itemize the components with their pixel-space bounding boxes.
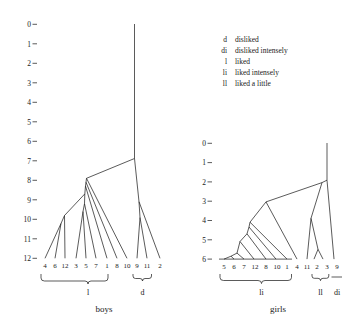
group-brace (220, 274, 292, 284)
group-brace (133, 274, 152, 281)
boys-dendrogram-links (45, 24, 160, 258)
axis-tick-12: 12 (24, 254, 38, 263)
axis-tick-1: 1 (202, 158, 212, 167)
axis-tick-label: 1 (202, 158, 206, 167)
axis-tick-label: 4 (27, 98, 31, 107)
legend-description: liked (235, 57, 250, 66)
axis-tick-3: 3 (27, 79, 37, 88)
leaf-label: 4 (43, 262, 47, 270)
legend-description: disliked (235, 35, 259, 44)
legend-row-1: di disliked intensely (221, 46, 288, 55)
axis-tick-2: 2 (202, 178, 212, 187)
legend: d disliked di disliked intensely l liked… (221, 35, 288, 88)
leaf-label: 9 (335, 263, 339, 271)
axis-tick-label: 4 (202, 216, 206, 225)
group-label: di (334, 288, 341, 297)
legend-description: liked intensely (235, 68, 279, 77)
axis-tick-label: 0 (27, 20, 31, 29)
leaf-label: 10 (124, 262, 132, 270)
legend-code: di (221, 46, 227, 55)
axis-tick-label: 3 (27, 79, 31, 88)
axis-tick-6: 6 (27, 137, 37, 146)
axis-tick-0: 0 (202, 139, 212, 148)
group-label: l (87, 288, 90, 297)
axis-tick-label: 2 (202, 178, 206, 187)
axis-tick-0: 0 (27, 20, 37, 29)
axis-tick-label: 9 (27, 196, 31, 205)
group-label: d (141, 288, 145, 297)
axis-tick-label: 3 (202, 197, 206, 206)
girls-leaf-labels: 5 6 7 12 8 10 1 4 11 2 3 9 (222, 263, 339, 271)
legend-row-4: ll liked a little (223, 79, 272, 88)
panel-girls: 0 1 2 3 4 (202, 139, 342, 314)
group-label: ll (318, 288, 323, 297)
legend-code: ll (223, 79, 227, 88)
axis-tick-8: 8 (27, 176, 37, 185)
leaf-label: 3 (74, 262, 78, 270)
axis-tick-label: 6 (202, 255, 206, 264)
leaf-label: 8 (115, 262, 119, 270)
leaf-label: 12 (62, 262, 70, 270)
legend-description: disliked intensely (235, 46, 288, 55)
axis-tick-label: 2 (27, 59, 31, 68)
leaf-label: 7 (94, 262, 98, 270)
leaf-label: 8 (264, 263, 268, 271)
legend-code: l (225, 57, 227, 66)
axis-tick-label: 7 (27, 157, 31, 166)
leaf-label: 2 (158, 262, 162, 270)
leaf-label: 6 (232, 263, 236, 271)
group-brace (312, 274, 329, 281)
boys-axis: 0 1 2 3 4 (24, 20, 38, 263)
axis-tick-label: 10 (24, 215, 32, 224)
group-label: li (259, 288, 264, 297)
axis-tick-9: 9 (27, 196, 37, 205)
leaf-label: 4 (295, 263, 299, 271)
legend-code: li (223, 68, 227, 77)
leaf-label: 11 (304, 263, 311, 271)
legend-row-2: l liked (225, 57, 250, 66)
leaf-label: 12 (252, 263, 260, 271)
dendrogram-figure: d disliked di disliked intensely l liked… (0, 0, 356, 321)
axis-tick-label: 8 (27, 176, 31, 185)
legend-code: d (223, 35, 227, 44)
panel-boys: 0 1 2 3 4 (24, 20, 163, 314)
legend-row-0: d disliked (223, 35, 259, 44)
girls-group-braces: li ll di (220, 274, 342, 297)
leaf-label: 2 (315, 263, 319, 271)
leaf-label: 3 (325, 263, 329, 271)
axis-tick-5: 5 (27, 118, 37, 127)
axis-tick-5: 5 (202, 236, 212, 245)
axis-tick-6: 6 (202, 255, 212, 264)
axis-tick-2: 2 (27, 59, 37, 68)
leaf-label: 10 (274, 263, 282, 271)
axis-tick-3: 3 (202, 197, 212, 206)
leaf-label: 1 (105, 262, 109, 270)
axis-tick-label: 5 (202, 236, 206, 245)
axis-tick-label: 0 (202, 139, 206, 148)
leaf-label: 5 (84, 262, 88, 270)
axis-tick-7: 7 (27, 157, 37, 166)
girls-dendrogram-links (224, 143, 334, 259)
axis-tick-1: 1 (27, 40, 37, 49)
axis-tick-4: 4 (27, 98, 37, 107)
axis-tick-4: 4 (202, 216, 212, 225)
panel-title-boys: boys (95, 304, 113, 314)
legend-description: liked a little (235, 79, 271, 88)
panel-title-girls: girls (270, 304, 286, 314)
legend-row-3: li liked intensely (223, 68, 279, 77)
leaf-label: 5 (222, 263, 226, 271)
leaf-label: 7 (242, 263, 246, 271)
leaf-label: 11 (144, 262, 151, 270)
boys-leaf-labels: 4 6 12 3 5 7 1 8 10 9 11 2 (43, 262, 162, 270)
axis-tick-label: 6 (27, 137, 31, 146)
axis-tick-label: 12 (24, 254, 32, 263)
leaf-label: 6 (53, 262, 57, 270)
axis-tick-label: 5 (27, 118, 31, 127)
axis-tick-10: 10 (24, 215, 38, 224)
axis-tick-label: 11 (24, 235, 31, 244)
figure-canvas: d disliked di disliked intensely l liked… (0, 0, 356, 321)
boys-group-braces: l d (41, 274, 152, 297)
axis-tick-label: 1 (27, 40, 31, 49)
group-brace (41, 274, 108, 284)
axis-tick-11: 11 (24, 235, 37, 244)
